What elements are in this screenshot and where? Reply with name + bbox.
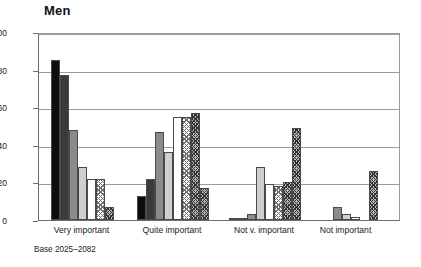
bar [69,130,78,220]
bar [351,217,360,220]
y-tick-label: 100 [0,28,7,38]
bar [292,128,301,220]
bar [96,179,105,220]
bar [51,60,60,220]
bar [105,207,114,220]
bar [274,186,283,220]
y-tick-label: 40 [0,141,7,151]
y-tick-label: 60 [0,103,7,113]
bar [60,75,69,220]
bar [229,218,238,220]
bar [333,207,342,220]
bar [369,171,378,220]
bar [283,182,292,220]
bar [247,214,256,220]
bar-group [229,34,301,220]
bar [342,214,351,220]
bar-chart: Men 020406080100 Very importantQuite imp… [0,0,421,267]
bar-group [315,34,378,220]
bar [137,196,146,220]
bar [78,167,87,220]
y-tick-label: 0 [0,216,7,226]
bar [200,188,209,220]
x-tick-label: Quite important [143,225,202,235]
base-note: Base 2025–2082 [34,245,96,254]
bar [182,117,191,220]
chart-title: Men [44,3,71,18]
bar-group [51,34,114,220]
bar [155,132,164,220]
bar [238,218,247,220]
bar [173,117,182,220]
bar [265,184,274,220]
bar-group [137,34,209,220]
bar [191,113,200,220]
plot-area [38,33,400,221]
y-tick-mark [33,221,38,222]
bar [87,179,96,220]
bar [146,179,155,220]
y-tick-label: 20 [0,178,7,188]
bar [164,152,173,220]
y-tick-label: 80 [0,66,7,76]
x-tick-label: Not important [320,225,372,235]
x-tick-label: Very important [54,225,109,235]
x-tick-label: Not v. important [234,225,294,235]
bar [256,167,265,220]
